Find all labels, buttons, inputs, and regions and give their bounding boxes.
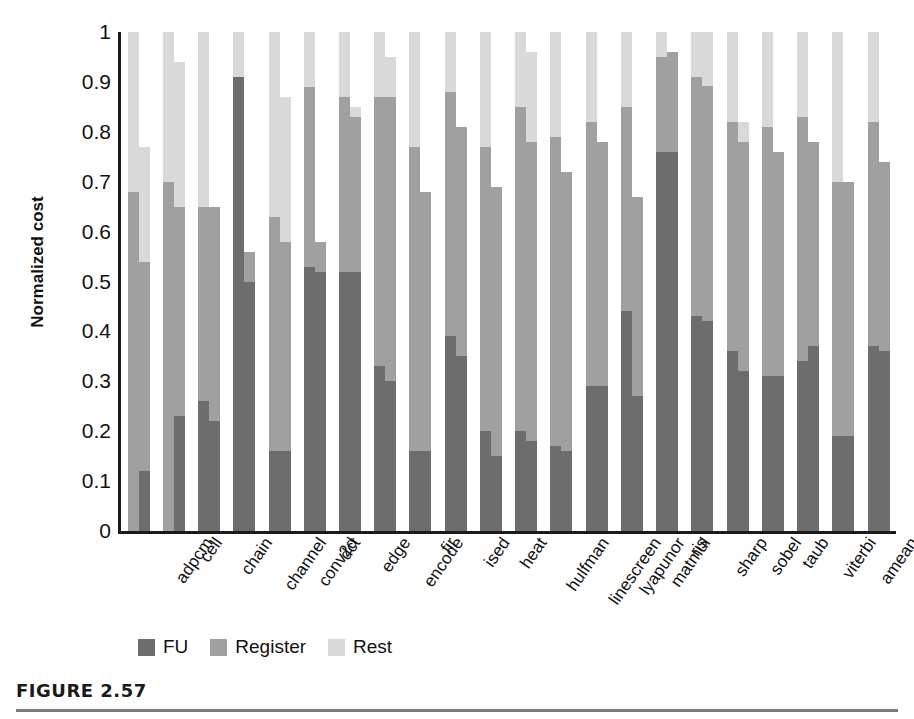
stacked-bar[interactable] bbox=[491, 32, 502, 531]
y-axis-tick-label: 0.8 bbox=[51, 119, 111, 143]
stacked-bar[interactable] bbox=[550, 32, 561, 531]
stacked-bar[interactable] bbox=[656, 32, 667, 531]
bar-segment-fu bbox=[561, 451, 572, 531]
stacked-bar[interactable] bbox=[667, 32, 678, 531]
stacked-bar[interactable] bbox=[409, 32, 420, 531]
bar-group[interactable] bbox=[191, 32, 226, 531]
bar-group[interactable] bbox=[227, 32, 262, 531]
stacked-bar[interactable] bbox=[621, 32, 632, 531]
bar-segment-register bbox=[198, 207, 209, 402]
y-axis-title: Normalized cost bbox=[28, 162, 48, 362]
stacked-bar[interactable] bbox=[808, 32, 819, 531]
stacked-bar[interactable] bbox=[515, 32, 526, 531]
stacked-bar[interactable] bbox=[797, 32, 808, 531]
bar-segment-fu bbox=[832, 436, 843, 531]
bar-segment-rest bbox=[868, 32, 879, 122]
bar-group[interactable] bbox=[544, 32, 579, 531]
x-axis-tick-label: sharp bbox=[731, 534, 772, 580]
stacked-bar[interactable] bbox=[280, 32, 291, 531]
bar-group[interactable] bbox=[403, 32, 438, 531]
stacked-bar[interactable] bbox=[244, 32, 255, 531]
stacked-bar[interactable] bbox=[163, 32, 174, 531]
bar-group[interactable] bbox=[861, 32, 896, 531]
stacked-bar[interactable] bbox=[702, 32, 713, 531]
bar-segment-fu bbox=[597, 386, 608, 531]
bar-segment-register bbox=[280, 242, 291, 452]
bar-segment-register bbox=[621, 107, 632, 312]
stacked-bar[interactable] bbox=[174, 32, 185, 531]
stacked-bar[interactable] bbox=[374, 32, 385, 531]
stacked-bar[interactable] bbox=[632, 32, 643, 531]
stacked-bar[interactable] bbox=[445, 32, 456, 531]
stacked-bar[interactable] bbox=[586, 32, 597, 531]
bar-segment-register bbox=[808, 142, 819, 347]
bar-segment-register bbox=[727, 122, 738, 352]
bar-segment-rest bbox=[174, 62, 185, 207]
stacked-bar[interactable] bbox=[350, 32, 361, 531]
stacked-bar[interactable] bbox=[738, 32, 749, 531]
legend-item[interactable]: Register bbox=[210, 636, 306, 658]
bar-segment-register bbox=[128, 192, 139, 531]
bar-group[interactable] bbox=[720, 32, 755, 531]
stacked-bar[interactable] bbox=[304, 32, 315, 531]
stacked-bar[interactable] bbox=[597, 32, 608, 531]
stacked-bar[interactable] bbox=[420, 32, 431, 531]
chart-legend: FURegisterRest bbox=[138, 636, 392, 658]
bar-segment-fu bbox=[409, 451, 420, 531]
bar-group[interactable] bbox=[121, 32, 156, 531]
bar-group[interactable] bbox=[826, 32, 861, 531]
stacked-bar[interactable] bbox=[868, 32, 879, 531]
stacked-bar[interactable] bbox=[315, 32, 326, 531]
stacked-bar[interactable] bbox=[832, 32, 843, 531]
bar-segment-register bbox=[304, 87, 315, 267]
bar-group[interactable] bbox=[579, 32, 614, 531]
legend-swatch-rest bbox=[328, 639, 345, 656]
bar-segment-register bbox=[762, 127, 773, 377]
stacked-bar[interactable] bbox=[456, 32, 467, 531]
stacked-bar[interactable] bbox=[339, 32, 350, 531]
bar-segment-fu bbox=[198, 401, 209, 531]
bar-group[interactable] bbox=[368, 32, 403, 531]
legend-item[interactable]: Rest bbox=[328, 636, 392, 658]
stacked-bar[interactable] bbox=[139, 32, 150, 531]
bar-segment-register bbox=[139, 262, 150, 472]
bar-group[interactable] bbox=[790, 32, 825, 531]
stacked-bar[interactable] bbox=[691, 32, 702, 531]
bar-group[interactable] bbox=[509, 32, 544, 531]
bar-group[interactable] bbox=[438, 32, 473, 531]
bar-group[interactable] bbox=[473, 32, 508, 531]
y-axis-tick-label: 0.1 bbox=[51, 469, 111, 493]
bar-group[interactable] bbox=[755, 32, 790, 531]
stacked-bar[interactable] bbox=[879, 32, 890, 531]
bar-group[interactable] bbox=[614, 32, 649, 531]
stacked-bar[interactable] bbox=[209, 32, 220, 531]
stacked-bar[interactable] bbox=[269, 32, 280, 531]
bar-segment-fu bbox=[526, 441, 537, 531]
bar-group[interactable] bbox=[332, 32, 367, 531]
bar-segment-register bbox=[445, 92, 456, 337]
stacked-bar[interactable] bbox=[385, 32, 396, 531]
stacked-bar[interactable] bbox=[233, 32, 244, 531]
bar-group[interactable] bbox=[650, 32, 685, 531]
bar-segment-fu bbox=[491, 456, 502, 531]
bar-segment-register bbox=[209, 207, 220, 422]
stacked-bar[interactable] bbox=[480, 32, 491, 531]
stacked-bar[interactable] bbox=[762, 32, 773, 531]
stacked-bar[interactable] bbox=[727, 32, 738, 531]
bar-segment-rest bbox=[762, 32, 773, 127]
stacked-bar[interactable] bbox=[773, 32, 784, 531]
bar-segment-fu bbox=[456, 356, 467, 531]
stacked-bar[interactable] bbox=[198, 32, 209, 531]
x-axis-tick-group: adpcmcellchainchannelconv2ddctedgeencode… bbox=[118, 534, 893, 634]
bar-group[interactable] bbox=[685, 32, 720, 531]
legend-item[interactable]: FU bbox=[138, 636, 188, 658]
stacked-bar[interactable] bbox=[561, 32, 572, 531]
bar-segment-fu bbox=[515, 431, 526, 531]
bar-group[interactable] bbox=[262, 32, 297, 531]
stacked-bar[interactable] bbox=[128, 32, 139, 531]
stacked-bar[interactable] bbox=[526, 32, 537, 531]
stacked-bar[interactable] bbox=[843, 32, 854, 531]
bar-group[interactable] bbox=[156, 32, 191, 531]
bar-group[interactable] bbox=[297, 32, 332, 531]
legend-swatch-register bbox=[210, 639, 227, 656]
